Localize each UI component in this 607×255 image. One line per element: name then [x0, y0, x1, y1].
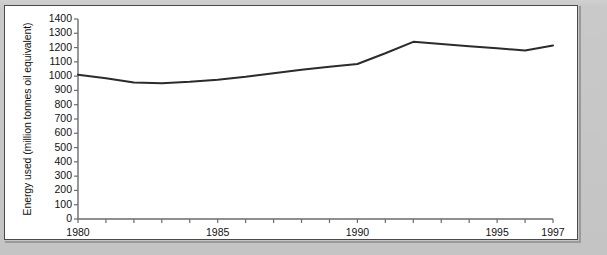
line-chart: Energy used (million tonnes oil equivale… — [0, 0, 607, 255]
data-series-line — [78, 42, 553, 83]
plot-area — [0, 0, 607, 255]
screenshot-root: Energy used (million tonnes oil equivale… — [0, 0, 607, 255]
